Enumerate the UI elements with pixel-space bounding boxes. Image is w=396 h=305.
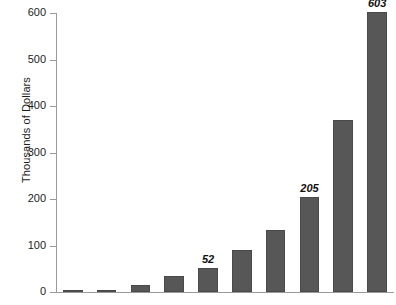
bar — [131, 285, 151, 292]
y-axis-tick-label: 600 — [0, 6, 46, 18]
bar — [164, 276, 184, 292]
y-axis-tick-label: 500 — [0, 53, 46, 65]
bar-value-label: 603 — [368, 0, 386, 9]
x-axis-line — [56, 292, 394, 293]
bar — [266, 230, 286, 292]
bar — [333, 120, 353, 292]
y-axis-tick-label: 400 — [0, 99, 46, 111]
y-axis-title: Thousands of Dollars — [20, 50, 32, 210]
bar — [198, 268, 218, 292]
bar — [232, 250, 252, 292]
y-axis-tick-label: 300 — [0, 146, 46, 158]
bars-layer: 52205603 — [56, 13, 394, 292]
bar — [97, 290, 117, 292]
bar-value-label: 205 — [300, 182, 318, 194]
y-axis-tick-label: 0 — [0, 285, 46, 297]
bar-value-label: 52 — [202, 253, 214, 265]
bar — [367, 12, 387, 292]
bar — [300, 197, 320, 292]
bar — [63, 290, 83, 292]
y-axis-tick-label: 100 — [0, 239, 46, 251]
y-axis-tick-label: 200 — [0, 192, 46, 204]
bar-chart: Thousands of Dollars 0100200300400500600… — [0, 0, 396, 305]
